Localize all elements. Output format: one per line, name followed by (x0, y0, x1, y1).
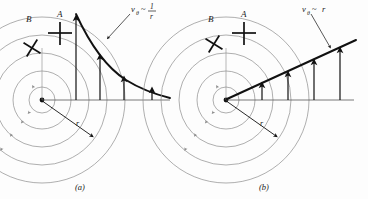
vortex-figure-svg: r A B v θ ~ 1 r (0, 0, 368, 199)
relation-subscript-b: θ (307, 10, 310, 16)
relation-tilde-b: ~ (312, 4, 317, 14)
relation-tilde-a: ~ (141, 4, 146, 14)
relation-denominator-a: r (150, 12, 153, 21)
flow-arrow-icon (217, 87, 218, 88)
marker-b-label-b: B (208, 14, 214, 24)
relation-subscript-a: θ (136, 10, 139, 16)
flow-arrow-icon (33, 87, 34, 88)
relation-symbol-b: v (302, 4, 306, 14)
relation-symbol-a: v (131, 4, 135, 14)
relation-numerator-a: 1 (150, 2, 154, 11)
marker-a-label-b: A (240, 9, 247, 19)
marker-b-label-a: B (26, 14, 32, 24)
marker-a-label-a: A (56, 9, 63, 19)
caption-b: (b) (259, 182, 269, 192)
figure-root: r A B v θ ~ 1 r (0, 0, 368, 199)
caption-a: (a) (75, 182, 85, 192)
relation-label-b: v θ ~ r (302, 4, 326, 16)
